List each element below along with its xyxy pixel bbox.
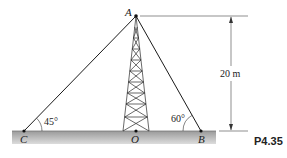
problem-id: P4.35	[254, 135, 283, 147]
diagram-root: A C O B 45° 60° 20 m P4.35	[0, 0, 287, 158]
angle-arc-C	[37, 118, 42, 131]
label-O: O	[131, 133, 139, 145]
angle-label-C: 45°	[44, 116, 58, 127]
label-A: A	[124, 6, 132, 18]
ground	[12, 131, 216, 144]
label-C: C	[20, 133, 28, 145]
cable-AB	[136, 16, 201, 131]
tower-diagram: A C O B 45° 60° 20 m P4.35	[0, 0, 287, 158]
cable-AC	[24, 16, 136, 131]
angle-label-B: 60°	[171, 113, 185, 124]
dimension-label: 20 m	[220, 68, 241, 79]
dim-arrow-down-icon	[229, 124, 233, 131]
dim-arrow-up-icon	[229, 17, 233, 24]
point-A	[134, 14, 138, 18]
label-B: B	[198, 133, 205, 145]
tower	[123, 16, 149, 131]
